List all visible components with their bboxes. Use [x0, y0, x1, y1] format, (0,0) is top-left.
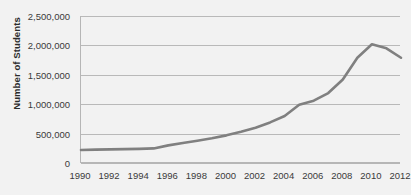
y-axis-tick-labels: 0500,0001,000,0001,500,0002,000,0002,500…	[0, 0, 74, 195]
y-tick-label: 0	[0, 158, 70, 169]
y-tick-label: 2,500,000	[0, 11, 70, 22]
plot-area	[80, 16, 400, 163]
y-tick-label: 1,000,000	[0, 99, 70, 110]
x-tick-label: 1990	[69, 170, 90, 181]
y-tick-label: 1,500,000	[0, 69, 70, 80]
x-axis-tick-labels: 1990199219941996199820002002200420062008…	[80, 170, 400, 190]
line-series	[81, 16, 401, 163]
x-tick-label: 2000	[215, 170, 236, 181]
x-tick-label: 2004	[273, 170, 294, 181]
x-tick-label: 2008	[331, 170, 352, 181]
x-tick-label: 2006	[302, 170, 323, 181]
x-tick-label: 1996	[157, 170, 178, 181]
x-tick-label: 2010	[360, 170, 381, 181]
x-tick-label: 1998	[186, 170, 207, 181]
y-tick-label: 500,000	[0, 128, 70, 139]
gridline	[81, 163, 400, 164]
x-tick-label: 1992	[99, 170, 120, 181]
x-tick-label: 2002	[244, 170, 265, 181]
y-tick-label: 2,000,000	[0, 40, 70, 51]
series-polyline	[81, 44, 401, 150]
x-tick-label: 2012	[389, 170, 410, 181]
x-tick-label: 1994	[128, 170, 149, 181]
